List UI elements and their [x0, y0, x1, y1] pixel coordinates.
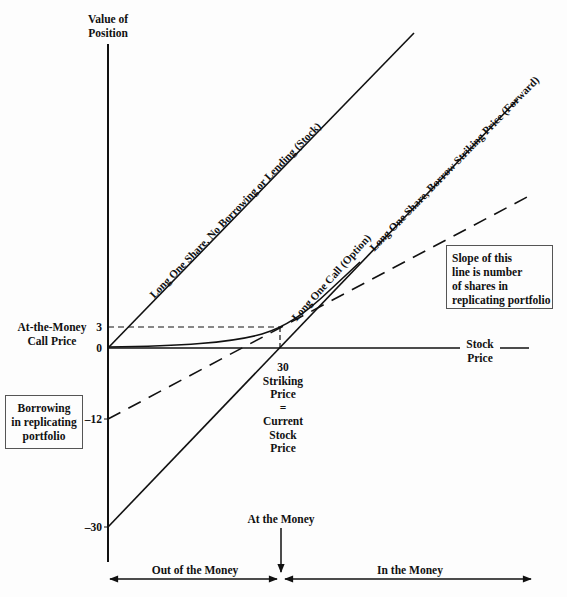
x-axis-label: Stock Price — [462, 337, 498, 365]
out-of-money-label: Out of the Money — [140, 563, 250, 577]
in-the-money-label: In the Money — [360, 563, 460, 577]
tick-y-minus30: –30 — [74, 520, 102, 534]
strike-label: 30 Striking Price = Current Stock Price — [258, 361, 308, 456]
at-the-money-label: At the Money — [241, 512, 321, 526]
y-axis-label: Value of Position — [88, 12, 128, 40]
slope-box: Slope of this line is number of shares i… — [446, 245, 553, 309]
atm-call-price-label: At-the-Money Call Price — [14, 320, 90, 348]
borrowing-box: Borrowing in replicating portfolio — [5, 395, 83, 449]
